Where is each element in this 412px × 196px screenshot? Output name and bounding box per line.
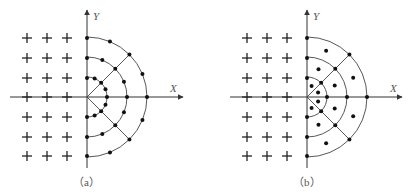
node (85, 56, 89, 60)
node (85, 76, 89, 80)
node (140, 118, 144, 122)
polar-cartesian-mesh-figure: X Y （a） X Y （b） (0, 0, 412, 196)
node (140, 72, 144, 76)
node (100, 132, 104, 136)
node (99, 81, 103, 85)
node (345, 95, 349, 99)
radial-line (87, 97, 129, 139)
node (333, 67, 337, 71)
panel-caption: （b） (293, 176, 321, 188)
node (127, 137, 131, 141)
y-axis-label: Y (313, 10, 321, 22)
node (325, 95, 329, 99)
cell-node (324, 141, 328, 145)
node (113, 123, 117, 127)
radial-line (87, 55, 129, 97)
cell-node (310, 106, 314, 110)
node (122, 80, 126, 84)
node (305, 56, 309, 60)
cell-node (333, 84, 337, 88)
panel-caption: （a） (73, 176, 100, 188)
node (113, 67, 117, 71)
node (85, 36, 89, 40)
node (365, 95, 369, 99)
node (99, 109, 103, 113)
y-axis-label: Y (93, 10, 101, 22)
node (145, 95, 149, 99)
node (103, 87, 107, 91)
node (347, 137, 351, 141)
node (125, 95, 129, 99)
x-axis-label: X (169, 82, 178, 94)
node (347, 53, 351, 57)
cell-node (351, 114, 355, 118)
node (319, 81, 323, 85)
panel-b: X Y （b） (230, 10, 402, 188)
node (105, 95, 109, 99)
node (305, 115, 309, 119)
node (108, 150, 112, 154)
node (305, 76, 309, 80)
panel-a: X Y （a） (10, 10, 183, 188)
node (127, 53, 131, 57)
cell-node (333, 106, 337, 110)
node (85, 135, 89, 139)
x-axis-label: X (389, 82, 398, 94)
radial-line (307, 97, 349, 139)
node (122, 110, 126, 114)
cell-node (316, 67, 320, 71)
node (319, 109, 323, 113)
node (93, 77, 97, 81)
cartesian-grid-points (22, 33, 72, 161)
node (305, 154, 309, 158)
node (108, 40, 112, 44)
node (333, 123, 337, 127)
radial-line (307, 55, 349, 97)
node (85, 154, 89, 158)
cell-node (324, 49, 328, 53)
cell-node (310, 84, 314, 88)
cell-node (316, 100, 320, 104)
cell-node (316, 123, 320, 127)
cartesian-grid-points (242, 33, 292, 161)
cell-node (351, 76, 355, 80)
node (93, 113, 97, 117)
cell-node (316, 90, 320, 94)
node (100, 58, 104, 62)
node (305, 36, 309, 40)
node (85, 115, 89, 119)
node (305, 135, 309, 139)
node (103, 103, 107, 107)
